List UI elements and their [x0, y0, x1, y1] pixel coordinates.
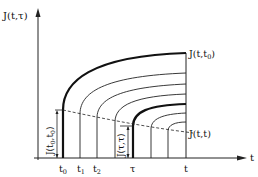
curve-t6 — [168, 122, 186, 158]
jtautau-arrow-bottom-icon — [127, 154, 130, 158]
jt0t0-arrow-top-icon — [56, 110, 59, 114]
tick-t: t — [184, 163, 188, 174]
tick-tau: τ — [130, 163, 135, 174]
x-axis-arrow-icon — [237, 156, 247, 161]
x-axis-label: t — [250, 152, 254, 163]
jtautau-label: J(τ,τ) — [116, 134, 126, 158]
jtt-dashed-curve — [63, 110, 186, 132]
curve-top-label: J(t,t0) — [188, 48, 215, 61]
tick-t1: t1 — [77, 163, 85, 176]
jt0t0-arrow-bottom-icon — [56, 154, 59, 158]
tick-t2: t2 — [93, 163, 101, 176]
y-axis-label: J(t,τ) — [2, 10, 28, 21]
jt0t0-label: J(t0,t0) — [45, 127, 56, 156]
creep-compliance-diagram: J(t,τ) t J(t,t0) J(t,t) J(t0,t0) J(τ,τ) … — [0, 0, 258, 177]
y-axis-arrow-icon — [36, 8, 41, 17]
tick-t0: t0 — [59, 163, 67, 176]
diag-jtt-label: J(t,t) — [188, 128, 211, 139]
jtautau-arrow-top-icon — [127, 126, 130, 130]
curve-t5 — [151, 113, 186, 158]
